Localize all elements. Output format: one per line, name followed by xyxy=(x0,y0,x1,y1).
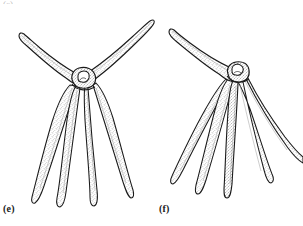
panel-f-arms-down xyxy=(171,73,303,198)
panel-e-drawing xyxy=(19,20,154,207)
figure-plate: (c) xyxy=(0,0,303,226)
panel-label-e: (e) xyxy=(3,203,15,214)
panel-label-f: (f) xyxy=(159,203,170,214)
panel-e-arms-down xyxy=(32,83,134,207)
brittle-star-illustration xyxy=(0,0,303,226)
panel-f-arm-up xyxy=(169,29,235,81)
panel-f-disc xyxy=(227,62,249,82)
panel-f-drawing xyxy=(169,29,303,198)
